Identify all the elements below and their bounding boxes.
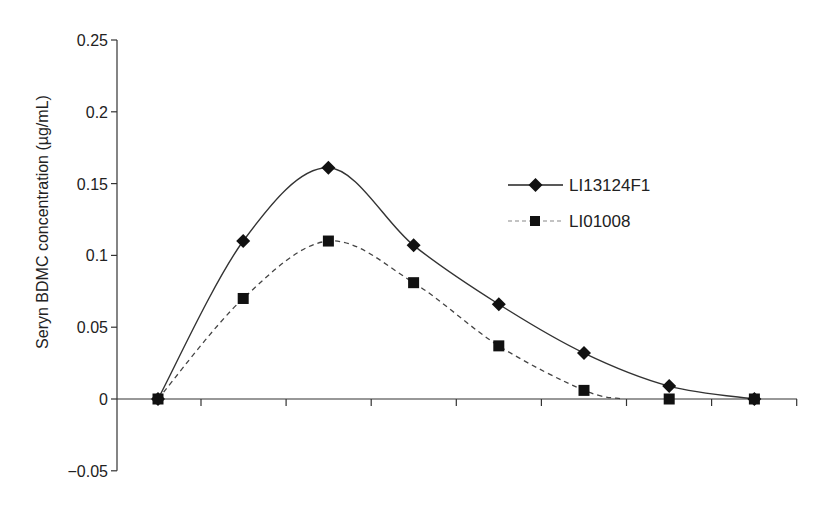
square-marker-icon [749, 394, 760, 405]
legend-label: LI01008 [569, 212, 630, 231]
chart: −0.0500.050.10.150.20.25 Seryn BDMC conc… [0, 0, 825, 511]
square-marker-icon [323, 236, 334, 247]
square-marker-icon [153, 394, 164, 405]
diamond-marker-icon [321, 161, 335, 175]
square-marker-icon [530, 216, 540, 226]
diamond-marker-icon [577, 346, 591, 360]
series-layer [151, 161, 761, 406]
y-axis: −0.0500.050.10.150.20.25 [68, 32, 117, 480]
legend-item-series-2: LI01008 [508, 212, 630, 231]
diamond-marker-icon [236, 234, 250, 248]
square-marker-icon [493, 340, 504, 351]
square-marker-icon [238, 293, 249, 304]
diamond-marker-icon [529, 178, 543, 192]
legend-item-series-1: LI13124F1 [508, 176, 650, 195]
y-tick-label: 0.15 [77, 176, 108, 193]
y-tick-label: 0.05 [77, 319, 108, 336]
x-axis [117, 399, 797, 406]
square-marker-icon [408, 277, 419, 288]
series-line [158, 168, 754, 399]
square-marker-icon [579, 385, 590, 396]
legend-label: LI13124F1 [569, 176, 650, 195]
square-marker-icon [664, 394, 675, 405]
diamond-marker-icon [492, 297, 506, 311]
y-tick-label: −0.05 [68, 463, 109, 480]
legend: LI13124F1 LI01008 [508, 176, 650, 231]
y-tick-label: 0.1 [86, 247, 108, 264]
series-1 [151, 161, 761, 406]
diamond-marker-icon [662, 379, 676, 393]
y-axis-title: Seryn BDMC concentration (µg/mL) [34, 95, 51, 349]
y-tick-label: 0.25 [77, 32, 108, 49]
y-tick-label: 0 [99, 391, 108, 408]
series-2 [153, 236, 760, 405]
y-tick-label: 0.2 [86, 104, 108, 121]
